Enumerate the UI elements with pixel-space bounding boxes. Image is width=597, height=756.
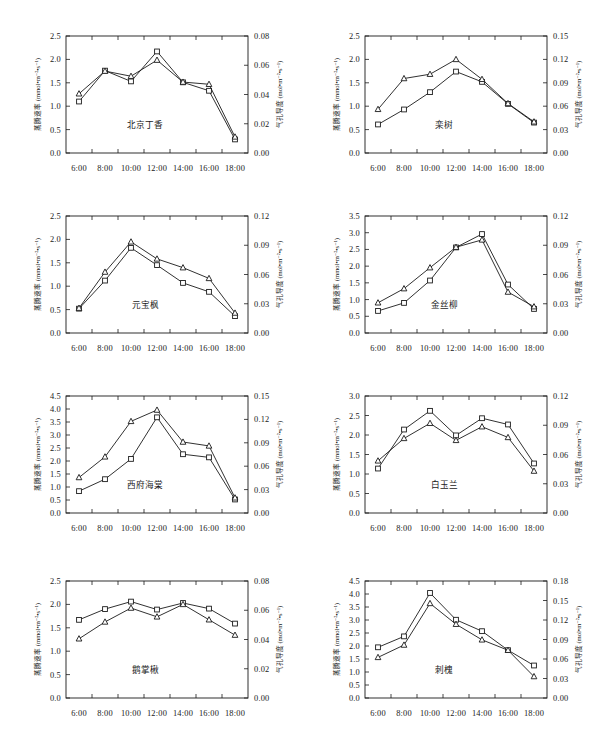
left-tick-label: 2.0	[50, 55, 61, 64]
right-tick-label: 0.15	[553, 32, 568, 41]
plot-frame	[365, 581, 547, 698]
x-tick-label-1: 8:00	[396, 709, 412, 718]
right-tick-label: 0.06	[553, 102, 568, 111]
data-point-square	[129, 79, 134, 84]
right-tick-label: 0.03	[553, 480, 568, 489]
data-point-triangle	[401, 286, 407, 291]
left-tick-label: 0.5	[50, 496, 61, 505]
right-tick-label: 0.02	[254, 665, 269, 674]
x-tick-label-0: 6:00	[370, 709, 386, 718]
data-point-square	[103, 278, 108, 283]
chart-panel-4: 0.00.51.01.52.02.53.03.50.000.030.060.09…	[299, 198, 597, 387]
left-tick-label: 0.5	[349, 312, 360, 321]
x-tick-label-4: 14:00	[472, 524, 492, 533]
left-axis-title: 蒸腾速率 (mmol•m⁻²•s⁻¹)	[33, 238, 42, 311]
plot-frame	[66, 581, 248, 698]
data-point-square	[428, 408, 433, 413]
series-line-1	[79, 602, 235, 624]
data-point-triangle	[427, 420, 433, 425]
right-tick-label: 0.00	[553, 149, 568, 158]
left-tick-label: 2.0	[349, 642, 360, 651]
x-tick-label-4: 14:00	[472, 164, 492, 173]
data-point-square	[103, 477, 108, 482]
left-tick-label: 0.5	[349, 681, 360, 690]
x-tick-label-0: 6:00	[71, 709, 87, 718]
right-tick-label: 0.00	[254, 694, 269, 703]
x-tick-label-5: 16:00	[498, 524, 518, 533]
x-tick-label-1: 8:00	[97, 164, 113, 173]
data-point-square	[402, 107, 407, 112]
left-axis-title: 蒸腾速率 (mmol•m⁻²•s⁻¹)	[332, 603, 341, 676]
right-tick-label: 0.09	[553, 241, 568, 250]
left-tick-label: 2.0	[349, 55, 360, 64]
data-point-square	[480, 232, 485, 237]
x-tick-label-6: 18:00	[524, 164, 544, 173]
left-tick-label: 4.0	[349, 590, 360, 599]
left-tick-label: 1.5	[349, 451, 360, 460]
plot-frame	[365, 36, 547, 153]
data-point-square	[506, 422, 511, 427]
right-tick-label: 0.12	[553, 55, 568, 64]
right-tick-label: 0.04	[254, 91, 270, 100]
data-point-square	[428, 90, 433, 95]
data-point-square	[532, 663, 537, 668]
chart-panel-2: 0.00.51.01.52.02.50.000.030.060.090.120.…	[299, 18, 597, 207]
right-tick-label: 0.03	[254, 300, 269, 309]
data-point-square	[129, 457, 134, 462]
right-tick-label: 0.15	[254, 392, 269, 401]
chart-panel-8: 0.00.51.01.52.02.53.03.54.04.50.000.030.…	[299, 563, 597, 752]
x-tick-label-6: 18:00	[524, 344, 544, 353]
left-tick-label: 1.5	[50, 259, 61, 268]
left-axis-title: 蒸腾速率 (mmol•m⁻²•s⁻¹)	[33, 418, 42, 491]
chart-panel-7: 0.00.51.01.52.02.50.000.020.040.060.086:…	[0, 563, 298, 752]
x-tick-label-6: 18:00	[225, 524, 245, 533]
left-axis-title: 蒸腾速率 (mmol•m⁻²•s⁻¹)	[332, 238, 341, 311]
left-tick-label: 2.0	[349, 262, 360, 271]
data-point-square	[480, 416, 485, 421]
data-point-square	[181, 281, 186, 286]
species-label: 金丝柳	[431, 299, 458, 310]
plot-frame	[66, 396, 248, 513]
left-axis-title: 蒸腾速率 (mmol•m⁻²•s⁻¹)	[33, 58, 42, 131]
left-tick-label: 1.0	[50, 282, 61, 291]
left-tick-label: 1.5	[50, 79, 61, 88]
species-label: 西府海棠	[127, 479, 163, 490]
plot-frame	[66, 216, 248, 333]
left-tick-label: 0.5	[50, 306, 61, 315]
data-point-square	[402, 301, 407, 306]
data-point-square	[129, 599, 134, 604]
species-label: 白玉兰	[431, 479, 458, 490]
right-tick-label: 0.06	[254, 462, 269, 471]
data-point-square	[155, 607, 160, 612]
right-tick-label: 0.06	[254, 606, 269, 615]
left-tick-label: 1.0	[349, 470, 360, 479]
right-tick-label: 0.00	[254, 149, 269, 158]
x-tick-label-6: 18:00	[524, 709, 544, 718]
x-tick-label-2: 10:00	[121, 164, 141, 173]
data-point-triangle	[427, 265, 433, 270]
x-tick-label-2: 10:00	[420, 524, 440, 533]
left-tick-label: 0.5	[349, 126, 360, 135]
right-tick-label: 0.06	[553, 655, 568, 664]
left-tick-label: 0.0	[50, 329, 61, 338]
left-tick-label: 1.5	[50, 624, 61, 633]
right-tick-label: 0.00	[254, 509, 269, 518]
x-tick-label-1: 8:00	[97, 344, 113, 353]
x-tick-label-5: 16:00	[498, 344, 518, 353]
data-point-square	[207, 606, 212, 611]
right-tick-label: 0.18	[553, 577, 568, 586]
right-tick-label: 0.15	[553, 597, 568, 606]
data-point-triangle	[375, 300, 381, 305]
data-point-triangle	[128, 239, 134, 244]
x-tick-label-5: 16:00	[199, 344, 219, 353]
x-tick-label-2: 10:00	[420, 164, 440, 173]
left-tick-label: 2.0	[50, 235, 61, 244]
data-point-triangle	[479, 76, 485, 81]
x-tick-label-2: 10:00	[420, 344, 440, 353]
data-point-triangle	[505, 289, 511, 294]
series-line-1	[378, 593, 534, 666]
x-tick-label-0: 6:00	[71, 344, 87, 353]
data-point-triangle	[154, 407, 160, 412]
left-tick-label: 1.5	[50, 470, 61, 479]
left-tick-label: 2.5	[50, 32, 61, 41]
